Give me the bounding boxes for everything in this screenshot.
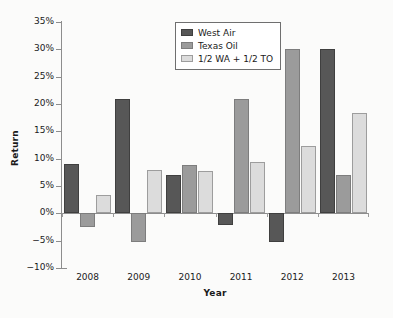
bar-2012-series-2 [301,146,316,213]
x-tick-mark [267,213,268,217]
y-tick-label: 10% [24,154,54,163]
legend-label: Texas Oil [198,41,238,51]
legend-item-2[interactable]: 1/2 WA + 1/2 TO [181,52,275,65]
legend-swatch-icon [181,29,193,36]
y-tick-mark [56,49,62,50]
y-tick-label: 5% [24,181,54,190]
y-tick-label: 20% [24,99,54,108]
bar-2009-series-1 [131,213,146,242]
bar-2010-series-1 [182,165,197,213]
y-tick-label: 15% [24,126,54,135]
y-tick-mark [56,77,62,78]
legend-item-1[interactable]: Texas Oil [181,39,275,52]
bar-2010-series-0 [166,175,181,213]
y-tick-mark [56,159,62,160]
y-axis-spine [61,21,62,269]
legend-label: 1/2 WA + 1/2 TO [198,54,273,64]
y-tick-label: −10% [24,263,54,272]
bar-2008-series-2 [96,195,111,213]
bar-2013-series-0 [320,49,335,213]
y-tick-mark [56,268,62,269]
legend-label: West Air [198,28,235,38]
bar-2012-series-1 [285,49,300,213]
y-tick-mark [56,22,62,23]
bar-2013-series-1 [336,175,351,213]
x-tick-label-2008: 2008 [65,272,111,282]
y-tick-mark [56,241,62,242]
legend-swatch-icon [181,42,193,49]
x-tick-mark [318,213,319,217]
x-tick-mark [62,213,63,217]
y-tick-label: 0% [24,208,54,217]
y-tick-mark [56,131,62,132]
chart-legend: West AirTexas Oil1/2 WA + 1/2 TO [175,22,281,70]
bar-2011-series-0 [218,213,233,225]
bar-2013-series-2 [352,113,367,214]
y-tick-mark [56,104,62,105]
bar-chart-figure: Return 35%30%25%20%15%10%5%0%−5%−10% 200… [0,0,393,318]
y-tick-mark [56,186,62,187]
x-tick-mark [216,213,217,217]
x-tick-label-2009: 2009 [116,272,162,282]
x-tick-mark [164,213,165,217]
bar-2011-series-1 [234,99,249,213]
x-tick-label-2013: 2013 [320,272,366,282]
x-tick-mark [113,213,114,217]
x-tick-mark [368,213,369,217]
y-tick-label: 35% [24,17,54,26]
y-tick-label: 25% [24,72,54,81]
bar-2011-series-2 [250,162,265,213]
x-tick-label-2011: 2011 [218,272,264,282]
bar-2009-series-0 [115,99,130,214]
x-tick-label-2010: 2010 [167,272,213,282]
legend-swatch-icon [181,55,193,62]
y-tick-label: 30% [24,44,54,53]
bar-2008-series-0 [64,164,79,213]
x-axis-label: Year [60,288,370,298]
legend-item-0[interactable]: West Air [181,26,275,39]
bar-2010-series-2 [198,171,213,214]
y-tick-label: −5% [24,236,54,245]
bar-2008-series-1 [80,213,95,227]
x-tick-label-2012: 2012 [269,272,315,282]
bar-2009-series-2 [147,170,162,213]
bar-2012-series-0 [269,213,284,242]
